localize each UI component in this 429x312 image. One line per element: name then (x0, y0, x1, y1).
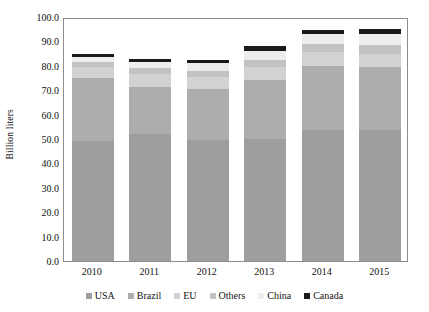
bar-segment[interactable] (129, 134, 171, 261)
x-tick-label: 2015 (351, 266, 407, 278)
bar-segment[interactable] (244, 67, 286, 80)
legend-item-label: Others (219, 291, 246, 301)
bar-segment[interactable] (187, 63, 229, 70)
legend-swatch-icon (128, 293, 134, 299)
stacked-bar-chart: Billion liters 100.090.080.070.060.050.0… (0, 0, 429, 312)
bar-segment[interactable] (129, 87, 171, 135)
bar-stack[interactable] (244, 46, 286, 261)
bar-segment[interactable] (244, 51, 286, 60)
bar-segment[interactable] (359, 34, 401, 45)
legend-item-label: China (267, 291, 291, 301)
bar-segment[interactable] (359, 45, 401, 54)
x-tick-label: 2012 (179, 266, 235, 278)
bar-stack[interactable] (302, 30, 344, 261)
x-tick-label: 2014 (294, 266, 350, 278)
bar-stack[interactable] (187, 60, 229, 261)
y-tick-label: 0.0 (13, 257, 59, 267)
legend-item[interactable]: China (258, 291, 291, 301)
x-tick-label: 2011 (121, 266, 177, 278)
plot-area (63, 18, 408, 262)
bar-segment[interactable] (302, 66, 344, 131)
legend-item-label: Brazil (137, 291, 161, 301)
bar-segment[interactable] (244, 60, 286, 67)
bar-segment[interactable] (72, 141, 114, 261)
bar-segment[interactable] (244, 80, 286, 139)
legend-swatch-icon (86, 293, 92, 299)
bar-stack[interactable] (72, 54, 114, 261)
bar-stack[interactable] (359, 29, 401, 261)
x-tick-label: 2013 (236, 266, 292, 278)
bar-stack[interactable] (129, 59, 171, 261)
legend-swatch-icon (174, 293, 180, 299)
x-tick-label: 2010 (64, 266, 120, 278)
legend-item[interactable]: Others (210, 291, 246, 301)
y-tick-label: 10.0 (13, 233, 59, 243)
bar-segment[interactable] (187, 77, 229, 89)
y-tick-label: 40.0 (13, 159, 59, 169)
legend-swatch-icon (258, 293, 264, 299)
y-tick-label: 30.0 (13, 184, 59, 194)
y-tick-label: 60.0 (13, 111, 59, 121)
legend-item[interactable]: EU (174, 291, 196, 301)
y-tick-label: 50.0 (13, 135, 59, 145)
legend-item[interactable]: Canada (304, 291, 343, 301)
legend-item[interactable]: Brazil (128, 291, 161, 301)
y-tick-label: 70.0 (13, 86, 59, 96)
legend-item[interactable]: USA (86, 291, 115, 301)
bar-segment[interactable] (187, 89, 229, 140)
bar-segment[interactable] (244, 139, 286, 261)
y-tick-label: 90.0 (13, 37, 59, 47)
bar-segment[interactable] (129, 74, 171, 86)
legend-item-label: Canada (313, 291, 343, 301)
bar-segment[interactable] (72, 67, 114, 78)
bar-segment[interactable] (359, 130, 401, 261)
legend-swatch-icon (304, 293, 310, 299)
bar-segment[interactable] (359, 54, 401, 67)
legend-item-label: EU (183, 291, 196, 301)
bar-segment[interactable] (72, 78, 114, 141)
bar-segment[interactable] (302, 52, 344, 65)
y-tick-label: 100.0 (13, 13, 59, 23)
bar-segment[interactable] (359, 67, 401, 130)
bar-segment[interactable] (302, 130, 344, 261)
bar-segment[interactable] (302, 44, 344, 53)
y-tick-label: 80.0 (13, 62, 59, 72)
legend-swatch-icon (210, 293, 216, 299)
y-tick-label: 20.0 (13, 208, 59, 218)
bar-segment[interactable] (302, 34, 344, 44)
bar-segment[interactable] (187, 140, 229, 261)
legend-item-label: USA (95, 291, 115, 301)
chart-legend: USABrazilEUOthersChinaCanada (0, 288, 429, 304)
